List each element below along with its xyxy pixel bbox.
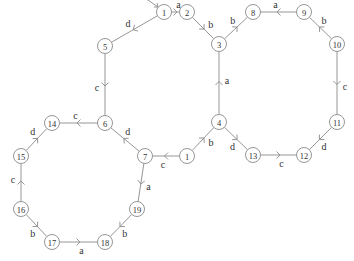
edge-line xyxy=(111,16,157,43)
edges-layer: ababcdcdbabcdcdcdcbaba xyxy=(11,0,348,256)
node-n14: 14 xyxy=(45,116,60,131)
node-label: 3 xyxy=(217,40,221,50)
node-label: 17 xyxy=(48,238,57,248)
node-n2: 2 xyxy=(180,5,195,20)
edge-n5-n6: c xyxy=(95,54,109,116)
edge-label: b xyxy=(208,137,213,148)
edge-label: d xyxy=(125,18,130,29)
edge-n3-n8: b xyxy=(224,15,247,39)
start-arrow-line xyxy=(145,0,158,7)
edge-line xyxy=(309,127,331,149)
edge-n17-n18: a xyxy=(60,239,98,256)
node-n11: 11 xyxy=(330,115,345,130)
edge-n16-n15: c xyxy=(11,164,25,202)
edge-line xyxy=(110,214,132,236)
edge-label: c xyxy=(343,81,348,92)
edge-label: a xyxy=(79,245,84,256)
edge-label: d xyxy=(125,126,130,137)
node-label: 7 xyxy=(143,152,147,162)
edge-label: d xyxy=(30,126,35,137)
edge-label: a xyxy=(146,181,151,192)
node-label: 19 xyxy=(133,205,142,215)
edge-n6-n14: c xyxy=(60,110,98,127)
node-label: 11 xyxy=(333,118,341,128)
edge-n13-n12: c xyxy=(261,152,297,169)
node-n7: 7 xyxy=(138,149,153,164)
edge-n9-n8: a xyxy=(261,0,297,16)
edge-label: d xyxy=(230,141,235,152)
edge-n16-n17: b xyxy=(26,214,47,238)
node-label: 6 xyxy=(103,119,107,129)
start-arrow xyxy=(145,0,158,7)
node-n6: 6 xyxy=(98,116,113,131)
edge-n4-n3: a xyxy=(216,52,230,115)
node-n5: 5 xyxy=(98,39,113,54)
graph-diagram: ababcdcdbabcdcdcdcbaba 12341765891011121… xyxy=(0,0,354,261)
nodes-layer: 123417658910111213141516171819 xyxy=(14,5,345,250)
node-label: 12 xyxy=(300,151,309,161)
edge-n1b-n7: c xyxy=(153,153,180,170)
edge-n1b-n4: b xyxy=(192,127,214,150)
node-label: 15 xyxy=(17,152,26,162)
node-n13: 13 xyxy=(246,148,261,163)
edge-n19-n18: b xyxy=(110,214,132,238)
edge-label: b xyxy=(321,15,326,26)
node-label: 1 xyxy=(185,152,189,162)
edge-label: b xyxy=(230,15,235,26)
node-label: 5 xyxy=(103,42,107,52)
node-n15: 15 xyxy=(14,149,29,164)
node-n12: 12 xyxy=(297,148,312,163)
edge-n15-n14: d xyxy=(26,126,47,150)
edge-label: b xyxy=(208,19,213,30)
edge-n10-n9: b xyxy=(309,15,331,39)
edge-label: a xyxy=(225,75,230,86)
edge-label: b xyxy=(122,228,127,239)
edge-label: d xyxy=(322,141,327,152)
edge-line xyxy=(224,127,247,150)
node-n4: 4 xyxy=(212,115,227,130)
edge-label: c xyxy=(95,82,100,93)
start-arrow-layer xyxy=(145,0,158,7)
node-label: 9 xyxy=(302,8,306,18)
edge-n11-n12: d xyxy=(309,127,331,151)
node-n18: 18 xyxy=(98,235,113,250)
edge-n7-n19: a xyxy=(138,163,151,201)
node-n1b: 1 xyxy=(180,149,195,164)
node-n3: 3 xyxy=(212,37,227,52)
node-n8: 8 xyxy=(246,5,261,20)
edge-n4-n13: d xyxy=(224,127,247,152)
edge-label: c xyxy=(11,174,16,185)
edge-label: b xyxy=(30,228,35,239)
node-label: 13 xyxy=(249,151,258,161)
node-label: 1 xyxy=(162,8,166,18)
edge-line xyxy=(224,17,247,39)
node-n10: 10 xyxy=(330,37,345,52)
node-label: 18 xyxy=(101,238,110,248)
node-label: 2 xyxy=(185,8,189,18)
edge-n1a-n5: d xyxy=(111,16,157,43)
node-label: 10 xyxy=(333,40,342,50)
node-n19: 19 xyxy=(130,202,145,217)
edge-label: c xyxy=(279,158,284,169)
node-n16: 16 xyxy=(14,202,29,217)
edge-label: c xyxy=(73,110,78,121)
node-n1a: 1 xyxy=(157,5,172,20)
node-label: 16 xyxy=(17,205,26,215)
edge-n2-n3: b xyxy=(192,17,213,38)
edge-n10-n11: c xyxy=(334,52,348,115)
edge-label: a xyxy=(273,0,278,10)
edge-n7-n6: d xyxy=(111,126,139,151)
node-n17: 17 xyxy=(45,235,60,250)
node-label: 14 xyxy=(48,119,57,129)
node-n9: 9 xyxy=(297,5,312,20)
node-label: 8 xyxy=(251,8,255,18)
edge-label: c xyxy=(161,159,166,170)
